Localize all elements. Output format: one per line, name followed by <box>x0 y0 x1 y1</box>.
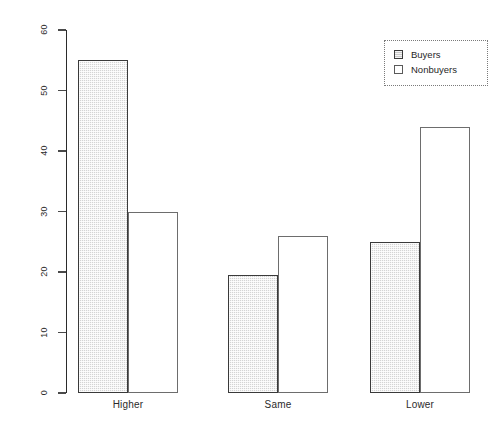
y-axis-line <box>66 30 67 393</box>
bar-lower-nonbuyers <box>420 127 470 393</box>
bar-same-nonbuyers <box>278 236 328 393</box>
chart-legend: Buyers Nonbuyers <box>384 40 488 86</box>
x-label-higher: Higher <box>78 399 178 411</box>
y-tick-label-10: 10 <box>40 321 49 343</box>
x-label-same: Same <box>228 399 328 411</box>
legend-label-nonbuyers: Nonbuyers <box>411 65 457 75</box>
y-tick-10 <box>58 332 66 333</box>
bar-chart-figure: 0102030405060 HigherSameLower Buyers Non… <box>0 0 501 438</box>
empty-square-icon <box>394 65 403 74</box>
y-tick-40 <box>58 150 66 151</box>
y-tick-label-30: 30 <box>40 200 49 222</box>
bar-higher-nonbuyers <box>128 212 178 394</box>
filled-square-icon <box>394 50 403 59</box>
legend-item-buyers: Buyers <box>394 47 487 62</box>
y-tick-0 <box>58 392 66 393</box>
x-label-lower: Lower <box>370 399 470 411</box>
y-tick-label-20: 20 <box>40 261 49 283</box>
y-tick-50 <box>58 90 66 91</box>
bar-higher-buyers <box>78 60 128 393</box>
y-tick-20 <box>58 271 66 272</box>
y-tick-label-0: 0 <box>40 382 49 404</box>
bar-same-buyers <box>228 275 278 393</box>
y-tick-label-40: 40 <box>40 140 49 162</box>
legend-label-buyers: Buyers <box>411 50 441 60</box>
y-tick-label-50: 50 <box>40 79 49 101</box>
y-tick-label-60: 60 <box>40 19 49 41</box>
bar-lower-buyers <box>370 242 420 393</box>
legend-item-nonbuyers: Nonbuyers <box>394 62 487 77</box>
plot-area: 0102030405060 HigherSameLower Buyers Non… <box>0 0 501 438</box>
y-tick-30 <box>58 211 66 212</box>
y-tick-60 <box>58 29 66 30</box>
